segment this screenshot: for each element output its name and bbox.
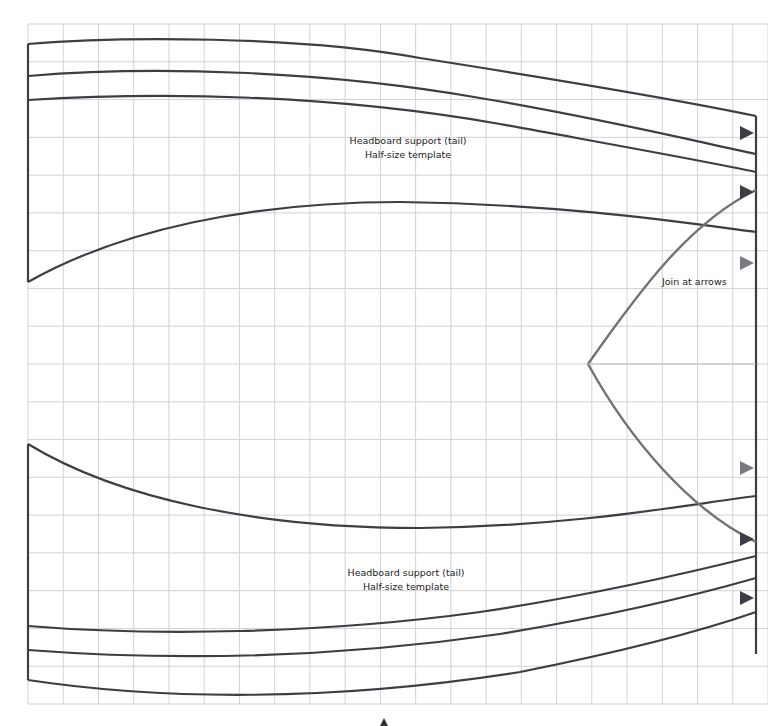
join-arrows [740,126,754,605]
arrow-marker-icon [740,185,754,199]
join-curve [588,190,756,542]
arrow-marker-icon [740,532,754,546]
bottom-template-title: Headboard support (tail) [328,566,484,580]
join-note: Join at arrows [662,275,727,289]
top-template-title: Headboard support (tail) [330,134,486,148]
arrow-marker-icon [740,461,754,475]
template-diagram [0,0,768,726]
arrow-marker-icon [740,256,754,270]
bottom-template-subtitle: Half-size template [328,580,484,594]
top-template-subtitle: Half-size template [330,148,486,162]
top-template-label: Headboard support (tail) Half-size templ… [330,134,486,162]
arrow-marker-icon [740,591,754,605]
bottom-template-label: Headboard support (tail) Half-size templ… [328,566,484,594]
center-marker-icon [380,718,388,726]
arrow-marker-icon [740,126,754,140]
top-template-outline [28,39,756,654]
